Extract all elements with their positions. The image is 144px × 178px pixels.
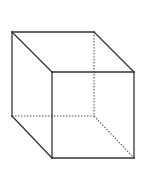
hidden-edge <box>94 116 134 158</box>
visible-edge <box>12 32 52 72</box>
visible-edge <box>12 116 52 158</box>
visible-edges <box>12 32 134 158</box>
visible-edge <box>94 32 134 72</box>
cube-wireframe <box>0 0 144 178</box>
cube-diagram <box>0 0 144 178</box>
